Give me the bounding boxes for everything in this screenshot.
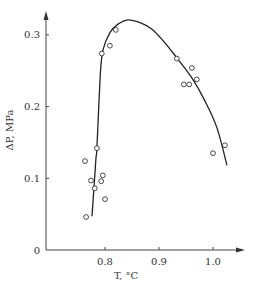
x-tick-label: 0.8: [97, 256, 113, 267]
data-point-marker: [181, 82, 186, 87]
data-point-marker: [108, 43, 113, 48]
y-ticks: 00.10.20.3: [24, 29, 49, 255]
y-tick-label: 0: [34, 245, 40, 256]
y-tick-label: 0.1: [24, 173, 40, 184]
fitted-curve: [92, 20, 227, 217]
data-point-marker: [103, 197, 108, 202]
data-point-marker: [89, 178, 94, 183]
data-point-marker: [194, 77, 199, 82]
axes: 0.80.91.0 00.10.20.3: [24, 11, 245, 267]
y-tick-label: 0.2: [24, 101, 40, 112]
data-point-marker: [113, 28, 118, 33]
data-point-marker: [187, 82, 192, 87]
y-axis-label: ΔP, MPa: [4, 110, 15, 151]
data-points: [83, 28, 228, 220]
y-axis-arrow-icon: [44, 11, 49, 20]
data-point-marker: [223, 143, 228, 148]
x-tick-label: 1.0: [205, 256, 221, 267]
chart: 0.80.91.0 00.10.20.3 T, °C ΔP, MPa: [0, 0, 256, 293]
data-point-marker: [95, 146, 100, 151]
x-tick-label: 0.9: [151, 256, 167, 267]
data-point-marker: [190, 66, 195, 71]
data-point-marker: [84, 215, 89, 220]
data-point-marker: [174, 56, 179, 61]
y-tick-label: 0.3: [24, 29, 40, 40]
x-axis-arrow-icon: [236, 248, 245, 253]
data-point-marker: [92, 186, 97, 191]
x-axis-label: T, °C: [114, 270, 139, 281]
data-point-marker: [99, 51, 104, 56]
data-point-marker: [83, 159, 88, 164]
data-point-marker: [99, 179, 104, 184]
data-point-marker: [211, 151, 216, 156]
data-point-marker: [100, 173, 105, 178]
